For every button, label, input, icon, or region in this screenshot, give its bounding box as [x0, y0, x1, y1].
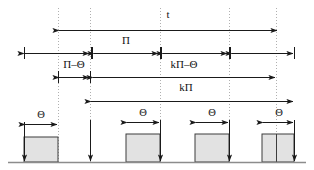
pulse-timing-diagram: tΠΠ–ΘkΠ–ΘkΠΘΘΘΘ: [0, 0, 314, 170]
pulse-1-body: [24, 137, 58, 162]
dimension-labels: tΠΠ–ΘkΠ–ΘkΠΘΘΘΘ: [37, 8, 283, 120]
k-pi-minus-theta-row-label: kΠ–Θ: [171, 58, 198, 70]
pi-minus-theta-row-label: Π–Θ: [63, 58, 84, 70]
theta-arrow-2-label: Θ: [139, 107, 147, 118]
theta-arrow-1-label: Θ: [37, 109, 45, 120]
pi-minus-theta-row: [59, 71, 91, 83]
pulse-train: [24, 134, 294, 162]
diagram-canvas: tΠΠ–ΘkΠ–ΘkΠΘΘΘΘ: [0, 0, 314, 170]
pulse-2-body: [126, 134, 160, 162]
pulse-3: [195, 134, 229, 162]
theta-arrow-3-label: Θ: [208, 107, 216, 118]
t-row-label: t: [166, 8, 169, 20]
pulse-1: [24, 137, 58, 162]
theta-dimension-arrows: [25, 123, 293, 125]
vertical-guide-lines: [59, 8, 277, 162]
pi-row-label: Π: [122, 34, 130, 46]
pulse-2: [126, 134, 160, 162]
pulse-3-body: [195, 134, 229, 162]
theta-arrow-4-label: Θ: [275, 107, 283, 118]
pulse-4-body: [262, 134, 294, 162]
k-pi-row-label: kΠ: [179, 81, 193, 93]
pulse-4: [262, 134, 294, 162]
